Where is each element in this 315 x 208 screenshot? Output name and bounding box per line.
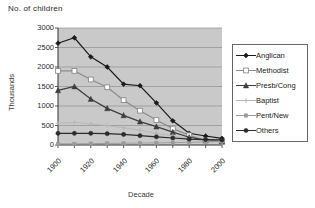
data-point [244,114,247,117]
x-tick-label: 1940 [103,156,129,182]
legend-marker-square-small-icon [236,110,256,121]
x-tick-label: 1980 [168,156,194,182]
x-tick-label: 1960 [135,156,161,182]
legend-marker-square-open-icon [236,65,256,76]
legend-item-anglican[interactable]: Anglican [236,48,305,63]
chart-legend: AnglicanMethodistPresb/CongBaptistPent/N… [232,44,308,142]
legend-marker-triangle-icon [236,80,256,91]
chart-container: No. of children Thousands Decade 0500100… [0,0,315,208]
legend-item-baptist[interactable]: Baptist [236,93,305,108]
data-point [244,53,249,58]
data-point [244,68,249,73]
legend-label: Baptist [256,97,279,105]
legend-label: Pent/New [256,112,289,120]
legend-item-pent-new[interactable]: Pent/New [236,108,305,123]
legend-label: Presb/Cong [256,82,296,90]
x-tick-label: 2000 [201,156,227,182]
data-point [244,128,248,132]
legend-item-presb-cong[interactable]: Presb/Cong [236,78,305,93]
x-tick-label: 1900 [37,156,63,182]
legend-item-methodist[interactable]: Methodist [236,63,305,78]
x-tick-label: 1920 [70,156,96,182]
legend-marker-circle-icon [236,125,256,136]
legend-marker-diamond-icon [236,50,256,61]
data-point [243,83,248,88]
legend-marker-star-icon [236,95,256,106]
legend-label: Anglican [256,52,285,60]
legend-label: Methodist [256,67,289,75]
legend-item-others[interactable]: Others [236,123,305,138]
legend-label: Others [256,127,279,135]
data-point [244,98,249,103]
